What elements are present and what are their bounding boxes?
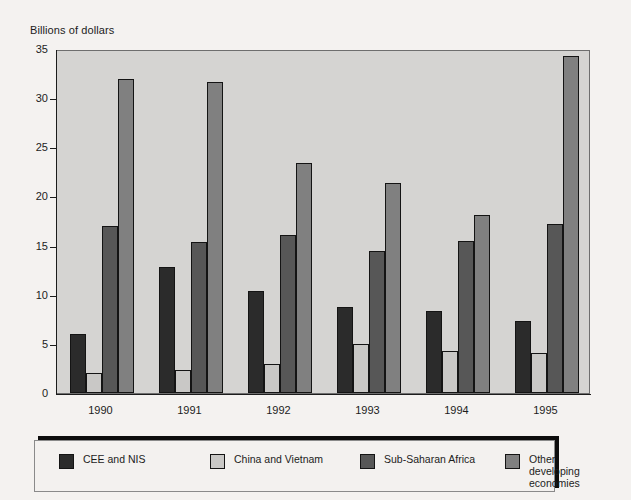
y-axis-title: Billions of dollars (30, 24, 114, 36)
bar (547, 224, 563, 393)
chart-legend: CEE and NISChina and VietnamSub-Saharan … (34, 440, 555, 492)
y-axis-label-wrap: 35 (0, 50, 48, 51)
bar (102, 226, 118, 393)
y-axis-tick-label: 35 (6, 43, 48, 55)
bar (207, 82, 223, 393)
bar (280, 235, 296, 393)
x-axis-tick-label: 1994 (417, 404, 497, 416)
bar (159, 267, 175, 393)
bar (442, 351, 458, 393)
legend-swatch-icon (505, 454, 520, 469)
y-axis-tick-label: 15 (6, 240, 48, 252)
y-axis-label-wrap: 10 (0, 296, 48, 297)
legend-swatch-icon (210, 454, 225, 469)
legend-item[interactable]: China and Vietnam (210, 453, 323, 469)
x-axis-tick-label: 1991 (150, 404, 230, 416)
bar (337, 307, 353, 393)
y-axis-line (56, 50, 57, 395)
y-axis-tick (50, 296, 57, 297)
bar (458, 241, 474, 393)
legend-item-label: Other developing economies (529, 453, 580, 489)
bar (385, 183, 401, 393)
chart-figure: Billions of dollars 05101520253035 19901… (0, 0, 631, 500)
y-axis-label-wrap: 15 (0, 247, 48, 248)
y-axis-tick-label: 5 (6, 338, 48, 350)
bar (296, 163, 312, 393)
plot-area (56, 50, 590, 394)
y-axis-tick-label: 10 (6, 289, 48, 301)
legend-item-label: China and Vietnam (234, 453, 323, 465)
bar (86, 373, 102, 393)
bar (426, 311, 442, 393)
x-axis-tick-label: 1990 (61, 404, 141, 416)
y-axis-tick (50, 148, 57, 149)
bar (474, 215, 490, 393)
legend-swatch-icon (360, 454, 375, 469)
legend-item[interactable]: CEE and NIS (59, 453, 145, 469)
bar (515, 321, 531, 393)
bar (563, 56, 579, 393)
y-axis-tick (50, 99, 57, 100)
legend-swatch-icon (59, 454, 74, 469)
bar (70, 334, 86, 393)
bar (175, 370, 191, 393)
y-axis-tick (50, 247, 57, 248)
y-axis-label-wrap: 5 (0, 345, 48, 346)
y-axis-tick (50, 345, 57, 346)
legend-item[interactable]: Other developing economies (505, 453, 580, 489)
y-axis-label-wrap: 20 (0, 197, 48, 198)
bar (264, 364, 280, 393)
bar (248, 291, 264, 393)
legend-item-label: Sub-Saharan Africa (384, 453, 475, 465)
bar (531, 353, 547, 393)
x-axis-tick-label: 1992 (239, 404, 319, 416)
y-axis-tick (50, 197, 57, 198)
bar (353, 344, 369, 393)
legend-item-label: CEE and NIS (83, 453, 145, 465)
bars-container (57, 51, 589, 393)
y-axis-label-wrap: 30 (0, 99, 48, 100)
y-axis-label-wrap: 0 (0, 394, 48, 395)
legend-item[interactable]: Sub-Saharan Africa (360, 453, 475, 469)
x-axis-tick-label: 1995 (506, 404, 586, 416)
y-axis-tick-label: 30 (6, 92, 48, 104)
bar (191, 242, 207, 393)
x-axis-tick-label: 1993 (328, 404, 408, 416)
bar (369, 251, 385, 393)
x-axis-line (56, 394, 591, 395)
bar (118, 79, 134, 394)
y-axis-tick-label: 25 (6, 141, 48, 153)
y-axis-tick-label: 0 (6, 387, 48, 399)
y-axis-label-wrap: 25 (0, 148, 48, 149)
y-axis-tick-label: 20 (6, 190, 48, 202)
